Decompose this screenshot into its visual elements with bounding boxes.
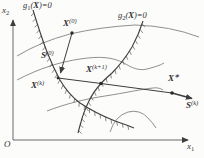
label-g2: g2(X)=0 [118, 11, 147, 21]
label-s0: S(0) [41, 50, 54, 60]
label-xk: X(k) [31, 80, 44, 90]
point-xk [57, 77, 60, 80]
point-xstar [170, 91, 174, 95]
constraint-g2-curve [78, 21, 143, 133]
label-axis-x2: x2 [2, 6, 9, 16]
objective-contour-3 [47, 88, 163, 111]
search-ray-xk-to-xstar [58, 78, 172, 93]
label-axis-x1: x1 [187, 142, 194, 152]
label-g1: g1(X)=0 [23, 1, 52, 11]
label-sk: S(k) [186, 100, 198, 110]
label-xstar: X∗ [168, 73, 179, 83]
label-x0: X(0) [63, 18, 77, 28]
point-xk1 [99, 82, 103, 86]
direction-sk-arrow [172, 93, 192, 99]
optimization-diagram: g1(X)=0 g2(X)=0 X(0) S(0) X(k) X(k+1) X∗… [0, 0, 204, 158]
point-x0 [70, 31, 73, 34]
direction-s0-arrow [61, 33, 73, 73]
label-origin: O [4, 140, 11, 149]
label-xk1: X(k+1) [86, 64, 107, 74]
